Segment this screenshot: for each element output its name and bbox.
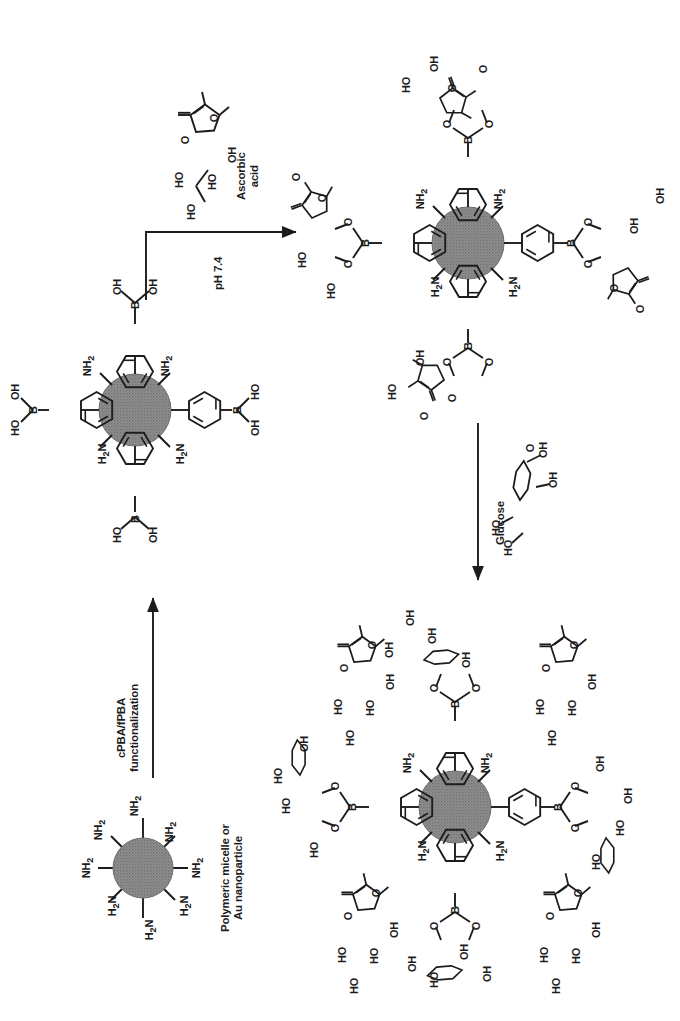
hydroxyl-label: HO: [368, 948, 380, 964]
reagent-ascorbic-label: Ascorbicacid: [235, 152, 261, 200]
oxygen-label: O: [338, 664, 350, 672]
oxygen-label: O: [544, 912, 556, 920]
oxygen-label: O: [329, 782, 341, 790]
boron-label: B: [449, 906, 461, 914]
hydroxyl-label: OH: [414, 350, 426, 366]
hydroxyl-label: OH: [147, 279, 159, 295]
hydroxyl-label: HO: [570, 948, 582, 964]
amine-label: H2N: [429, 277, 444, 297]
hydroxyl-label: HO: [325, 283, 337, 299]
hydroxyl-label: OH: [383, 642, 395, 658]
oxygen-label: O: [568, 641, 580, 649]
nanoparticle-core: [113, 838, 173, 898]
amine-label: NH2: [92, 820, 107, 840]
hydroxyl-label: HO: [332, 699, 344, 715]
oxygen-label: O: [569, 782, 581, 790]
hydroxyl-label: HO: [534, 699, 546, 715]
hydroxyl-label: OH: [249, 420, 261, 436]
amine-label: H2N: [143, 920, 158, 940]
hydroxyl-label: OH: [428, 56, 440, 72]
starting-material-caption: Polymeric micelle orAu nanoparticle: [219, 824, 245, 932]
hydroxyl-label: OH: [590, 922, 602, 938]
oxygen-label: O: [572, 889, 584, 897]
oxygen-label: O: [477, 65, 489, 73]
boron-label: B: [552, 803, 564, 811]
hydroxyl-label: OH: [628, 218, 640, 234]
boron-label: B: [462, 342, 474, 350]
hydroxyl-label: OH: [460, 652, 472, 668]
oxygen-label: O: [418, 412, 430, 420]
hydroxyl-label: OH: [111, 279, 123, 295]
oxygen-label: O: [366, 641, 378, 649]
oxygen-label: O: [342, 912, 354, 920]
oxygen-label: O: [470, 684, 482, 692]
hydroxyl-label: OH: [226, 147, 238, 163]
hydroxyl-label: OH: [594, 756, 606, 772]
boron-label: B: [346, 803, 358, 811]
hydroxyl-label: OH: [388, 922, 400, 938]
oxygen-label: O: [179, 136, 191, 144]
oxygen-label: O: [428, 684, 440, 692]
hydroxyl-label: HO: [185, 204, 197, 220]
oxygen-label: O: [329, 824, 341, 832]
hydroxyl-label: OH: [622, 788, 634, 804]
hydroxyl-label: OH: [384, 674, 396, 690]
arrow-ph-label: pH 7.4: [212, 257, 225, 290]
amine-label: H2N: [106, 896, 121, 916]
hydroxyl-label: HO: [173, 172, 185, 188]
boron-label: B: [462, 136, 474, 144]
hydroxyl-label: OH: [586, 674, 598, 690]
hydroxyl-label: HO: [400, 77, 412, 93]
oxygen-label: O: [608, 284, 620, 292]
oxygen-label: O: [446, 84, 458, 92]
hydroxyl-label: HO: [344, 730, 356, 746]
boron-label: B: [231, 406, 243, 414]
oxygen-label: O: [441, 120, 453, 128]
oxygen-label: O: [524, 444, 536, 452]
oxygen-label: O: [316, 194, 328, 202]
amine-label: NH2: [479, 753, 494, 773]
hydroxyl-label: OH: [481, 966, 493, 982]
hydroxyl-label: HO: [348, 978, 360, 994]
hydroxyl-label: HO: [546, 730, 558, 746]
hydroxyl-label: OH: [298, 736, 310, 752]
amine-label: H2N: [507, 277, 522, 297]
hydroxyl-label: HO: [364, 700, 376, 716]
oxygen-label: O: [470, 922, 482, 930]
hydroxyl-label: HO: [538, 947, 550, 963]
hydroxyl-label: OH: [654, 188, 666, 204]
hydroxyl-label: OH: [404, 610, 416, 626]
hydroxyl-label: OH: [426, 628, 438, 644]
hydroxyl-label: OH: [458, 944, 470, 960]
boron-label: B: [129, 515, 141, 523]
amine-label: H2N: [174, 444, 189, 464]
oxygen-label: O: [441, 358, 453, 366]
arrow-functionalization-label: cPBA/fPBAfunctionalization: [115, 684, 141, 772]
reaction-scheme-figure: [0, 0, 680, 1021]
oxygen-label: O: [540, 664, 552, 672]
oxygen-label: O: [446, 394, 458, 402]
amine-label: NH2: [159, 356, 174, 376]
amine-label: NH2: [414, 189, 429, 209]
oxygen-label: O: [342, 218, 354, 226]
oxygen-label: O: [428, 922, 440, 930]
amine-label: NH2: [80, 858, 95, 878]
hydroxyl-label: OH: [547, 472, 559, 488]
hydroxyl-label: HO: [428, 972, 440, 988]
boron-label: B: [129, 301, 141, 309]
boron-label: B: [449, 700, 461, 708]
hydroxyl-label: HO: [249, 384, 261, 400]
hydroxyl-label: OH: [537, 442, 549, 458]
hydroxyl-label: HO: [502, 540, 514, 556]
hydroxyl-label: HO: [111, 527, 123, 543]
amine-label: NH2: [190, 858, 205, 878]
oxygen-label: O: [634, 305, 646, 313]
oxygen-label: O: [582, 260, 594, 268]
oxygen-label: O: [370, 889, 382, 897]
boron-label: B: [565, 239, 577, 247]
hydroxyl-label: HO: [490, 520, 502, 536]
oxygen-label: O: [483, 358, 495, 366]
amine-label: NH2: [163, 822, 178, 842]
hydroxyl-label: HO: [336, 947, 348, 963]
oxygen-label: O: [208, 114, 220, 122]
